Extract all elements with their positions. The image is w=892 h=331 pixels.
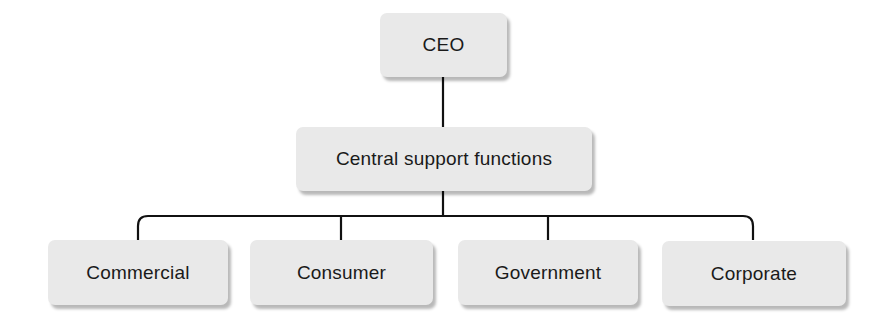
node-consumer-label: Consumer — [297, 262, 386, 284]
node-corporate: Corporate — [662, 241, 846, 306]
node-commercial-label: Commercial — [86, 262, 189, 284]
node-government: Government — [458, 240, 638, 305]
node-corporate-label: Corporate — [711, 263, 797, 285]
node-consumer: Consumer — [250, 240, 433, 305]
node-ceo-label: CEO — [423, 34, 465, 56]
node-commercial: Commercial — [48, 240, 228, 305]
connector-bar — [138, 216, 753, 240]
node-central-label: Central support functions — [336, 148, 552, 170]
node-central-support-functions: Central support functions — [296, 127, 592, 191]
node-ceo: CEO — [380, 13, 507, 77]
node-government-label: Government — [495, 262, 602, 284]
